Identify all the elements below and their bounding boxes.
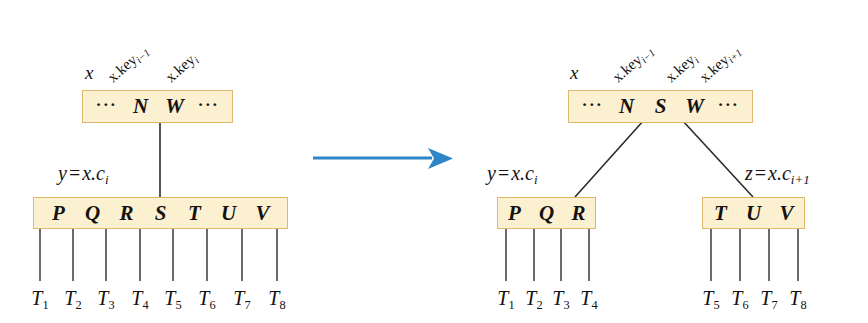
before-key-label-i-minus-1: x.keyi−1 [105, 43, 151, 86]
after-right-child-node[interactable]: T U V [702, 197, 805, 229]
btree-split-figure: x x.keyi−1 x.keyi ··· N W ··· y=x.ci P Q… [0, 0, 868, 323]
before-child-cell-T: T [178, 203, 212, 224]
after-left-child-cell-P: P [499, 203, 531, 224]
before-child-node[interactable]: P Q R S T U V [33, 197, 288, 229]
before-parent-node[interactable]: ··· N W ··· [82, 90, 233, 123]
after-parent-cell-N: N [610, 96, 644, 117]
before-child-cell-P: P [42, 203, 76, 224]
after-right-subtree-label-T8: T8 [780, 288, 816, 308]
edge-parent-to-right-child-after [682, 120, 753, 197]
edge-parent-to-left-child-after [575, 120, 644, 197]
before-child-cell-S: S [144, 203, 178, 224]
after-right-child-cell-T: T [704, 203, 737, 224]
before-child-pointer-label: y=x.ci [58, 163, 109, 183]
before-key-label-i: x.keyi [163, 50, 200, 85]
before-subtree-label-T8: T8 [259, 288, 295, 308]
before-subtree-label-T4: T4 [122, 288, 158, 308]
before-parent-cell-0: ··· [90, 96, 124, 113]
after-left-child-cell-R: R [563, 203, 595, 224]
before-subtree-label-T6: T6 [189, 288, 225, 308]
after-parent-node[interactable]: ··· N S W ··· [568, 90, 753, 123]
after-key-label-i: x.keyi [663, 50, 700, 85]
after-parent-cell-0: ··· [576, 96, 610, 113]
after-key-label-i-plus-1: x.keyi+1 [697, 43, 743, 86]
before-child-cell-U: U [212, 203, 246, 224]
after-parent-cell-S: S [644, 96, 678, 117]
after-right-child-cell-U: U [737, 203, 770, 224]
after-left-subtree-label-T4: T4 [571, 288, 607, 308]
rhs: x.c [511, 162, 534, 184]
before-child-cell-V: V [246, 203, 280, 224]
after-parent-cell-W: W [678, 96, 712, 117]
after-left-child-node[interactable]: P Q R [497, 197, 596, 229]
before-parent-cell-W: W [158, 96, 192, 117]
after-parent-pointer-label: x [570, 63, 578, 82]
before-child-cell-R: R [110, 203, 144, 224]
before-child-cell-Q: Q [76, 203, 110, 224]
before-subtree-label-T5: T5 [155, 288, 191, 308]
before-subtree-label-T2: T2 [55, 288, 91, 308]
lhs: y [487, 162, 496, 184]
right-arrow-icon [313, 148, 453, 169]
after-left-child-pointer-label: y=x.ci [487, 163, 538, 183]
before-parent-cell-3: ··· [192, 96, 226, 113]
before-subtree-label-T7: T7 [224, 288, 260, 308]
after-parent-cell-4: ··· [712, 96, 746, 113]
before-parent-cell-N: N [124, 96, 158, 117]
after-right-child-pointer-label: z=x.ci+1 [745, 163, 810, 183]
lhs: y [58, 162, 67, 184]
after-right-child-cell-V: V [770, 203, 803, 224]
rhs: x.c [768, 162, 791, 184]
after-key-label-i-minus-1: x.keyi−1 [610, 43, 656, 86]
rhs: x.c [82, 162, 105, 184]
before-subtree-label-T1: T1 [22, 288, 58, 308]
before-parent-pointer-label: x [85, 63, 93, 82]
before-subtree-label-T3: T3 [88, 288, 124, 308]
after-left-child-cell-Q: Q [531, 203, 563, 224]
lhs: z [745, 162, 753, 184]
